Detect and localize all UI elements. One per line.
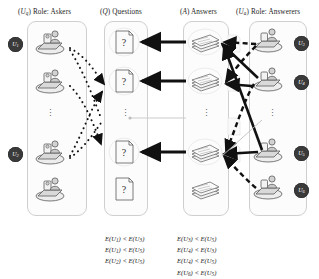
formula-row: E(U6) < E(U5) bbox=[177, 268, 216, 279]
formula-row: E(U3) < E(U5) bbox=[177, 234, 216, 245]
badge-answerer-u4: U4 bbox=[294, 75, 309, 90]
column-header-answerers: (Ua) Role: Answerers bbox=[236, 8, 300, 16]
formula-row: E(U4) < E(U5) bbox=[177, 256, 216, 267]
badge-asker-u2: U2 bbox=[8, 147, 23, 162]
formula-column-right: E(U3) < E(U5) E(U4) < E(U3) E(U4) < E(U5… bbox=[177, 234, 216, 279]
panel-answers bbox=[183, 21, 229, 216]
ellipsis-answers: ⋮ bbox=[202, 112, 211, 115]
panel-askers bbox=[27, 21, 87, 216]
answerer-doc-icon bbox=[228, 35, 240, 162]
ellipsis-askers: ⋮ bbox=[46, 112, 55, 115]
figure-canvas: (Uq) Role: Askers (Q) Questions (A) Answ… bbox=[0, 0, 319, 279]
column-header-questions: (Q) Questions bbox=[100, 8, 142, 16]
formula-row: E(U1) < E(U3) bbox=[105, 234, 144, 245]
panel-questions bbox=[104, 21, 148, 216]
formula-row: E(U1) < E(U5) bbox=[105, 245, 144, 256]
column-header-askers: (Uq) Role: Askers bbox=[18, 8, 71, 16]
badge-answerer-u3: U3 bbox=[294, 36, 309, 51]
ellipsis-answerers: ⋮ bbox=[268, 112, 277, 115]
badge-answerer-u6: U6 bbox=[294, 183, 309, 198]
ellipsis-questions: ⋮ bbox=[121, 112, 130, 115]
badge-asker-u1: U1 bbox=[8, 37, 23, 52]
badge-answerer-u5: U5 bbox=[294, 146, 309, 161]
formula-row: E(U4) < E(U3) bbox=[177, 245, 216, 256]
formula-row: E(U2) < E(U5) bbox=[105, 256, 144, 267]
formula-column-left: E(U1) < E(U3) E(U1) < E(U5) E(U2) < E(U5… bbox=[105, 234, 144, 268]
column-header-answers: (A) Answers bbox=[180, 8, 217, 16]
edge-answer-to-question bbox=[142, 42, 186, 152]
